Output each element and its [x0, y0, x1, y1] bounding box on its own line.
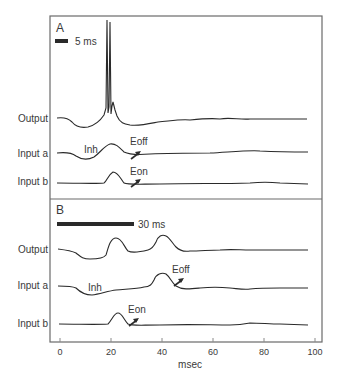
- trace-input-b-a: [57, 172, 308, 184]
- x-tick-0: 0: [57, 347, 62, 357]
- trace-label-output-b: Output: [18, 244, 48, 255]
- arrow-icon-eon-a: [131, 179, 141, 187]
- x-tick-80: 80: [259, 347, 269, 357]
- figure: A 5 ms Output Input a Input b Inh Eoff E…: [0, 0, 340, 380]
- trace-output-b: [58, 235, 308, 259]
- trace-label-input-b-a: Input b: [17, 176, 48, 187]
- x-tick-60: 60: [208, 347, 218, 357]
- x-tick-20: 20: [106, 347, 116, 357]
- panel-b-label: B: [56, 203, 64, 217]
- trace-label-input-a-a: Input a: [17, 148, 48, 159]
- x-tick-40: 40: [157, 347, 167, 357]
- scale-bar-30ms-label: 30 ms: [138, 219, 165, 230]
- scale-bar-5ms-label: 5 ms: [75, 36, 97, 47]
- panel-b: B 30 ms Output Input a Input b Inh Eoff …: [17, 203, 308, 329]
- annotation-inh-b: Inh: [88, 282, 102, 293]
- panel-a-label: A: [56, 21, 64, 35]
- plot-frame: [50, 16, 322, 342]
- arrow-icon-eoff-b: [174, 278, 184, 286]
- annotation-inh-a: Inh: [84, 144, 98, 155]
- trace-label-input-a-b: Input a: [17, 280, 48, 291]
- annotation-eon-a: Eon: [130, 166, 148, 177]
- x-tick-100: 100: [307, 347, 322, 357]
- trace-label-input-b-b: Input b: [17, 318, 48, 329]
- x-axis-label: msec: [178, 359, 202, 370]
- trace-label-output-a: Output: [18, 113, 48, 124]
- x-axis: 0 20 40 60 80 100 msec: [57, 338, 322, 370]
- annotation-eoff-b: Eoff: [172, 264, 190, 275]
- scale-bar-30ms: [57, 222, 134, 226]
- scale-bar-5ms: [55, 39, 68, 43]
- annotation-eoff-a: Eoff: [130, 136, 148, 147]
- annotation-eon-b: Eon: [128, 304, 146, 315]
- panel-a: A 5 ms Output Input a Input b Inh Eoff E…: [17, 20, 308, 187]
- trace-input-b-b: [59, 313, 308, 325]
